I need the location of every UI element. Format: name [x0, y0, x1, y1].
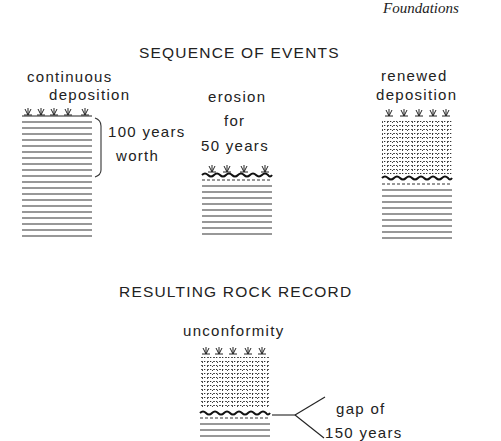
erosion-surface: [202, 174, 272, 177]
gap-pointer: [272, 397, 325, 438]
diagram-graphics: [0, 0, 501, 441]
grass-tuft-icon: [385, 109, 450, 116]
erosion-surface: [200, 412, 270, 415]
grass-tuft-icon: [208, 165, 269, 172]
bracket: [95, 118, 101, 177]
grass-tuft-icon: [24, 108, 89, 115]
stage2-strata-column: [202, 165, 272, 234]
stage1-strata-column: [22, 108, 101, 236]
result-strata-column: [200, 347, 325, 438]
erosion-surface: [382, 177, 452, 180]
grass-tuft-icon: [202, 347, 266, 354]
stage3-strata-column: [382, 109, 452, 238]
